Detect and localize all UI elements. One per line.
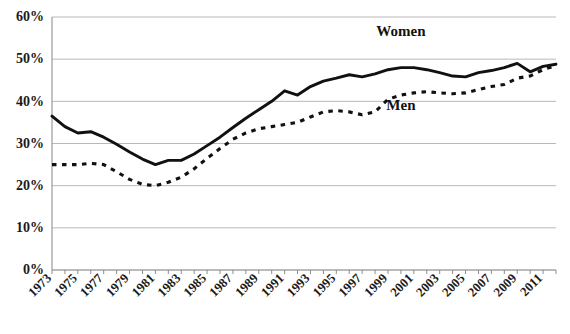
x-axis-tick-label: 1997	[335, 270, 364, 299]
x-axis-tick-label: 2011	[517, 271, 545, 299]
x-axis-tick-label: 2009	[490, 270, 519, 299]
line-chart: 0%10%20%30%40%50%60% 1973197519771979198…	[0, 0, 570, 334]
x-axis-tick-labels: 1973197519771979198119831985198719891991…	[25, 270, 545, 299]
series-line-women	[52, 63, 556, 164]
x-axis-tick-label: 1977	[77, 270, 106, 299]
x-axis-tick-label: 2001	[387, 271, 416, 300]
x-axis-tick-label: 1999	[361, 270, 390, 299]
x-axis-tick-label: 1993	[284, 270, 313, 299]
data-series	[52, 63, 556, 185]
series-line-men	[52, 65, 556, 185]
x-axis-tick-label: 1985	[180, 270, 209, 299]
x-axis-tick-label: 1991	[258, 271, 287, 300]
x-axis-tick-label: 1987	[206, 270, 235, 299]
x-axis-tick-label: 1979	[103, 270, 132, 299]
series-annotation-women: Women	[376, 23, 426, 39]
y-axis-tick-labels: 0%10%20%30%40%50%60%	[16, 9, 44, 277]
y-axis-tick-label: 20%	[16, 178, 44, 193]
series-annotation-men: Men	[386, 97, 416, 113]
y-axis-tick-label: 50%	[16, 51, 44, 66]
x-axis-tick-label: 1983	[154, 270, 183, 299]
y-axis-tick-label: 30%	[16, 136, 44, 151]
x-axis-tick-label: 1989	[232, 270, 261, 299]
y-axis-tick-label: 60%	[16, 9, 44, 24]
chart-canvas: 0%10%20%30%40%50%60% 1973197519771979198…	[0, 0, 570, 334]
x-axis-tick-label: 2003	[413, 270, 442, 299]
x-axis-tick-label: 2005	[439, 270, 468, 299]
y-axis-tick-label: 10%	[16, 220, 44, 235]
y-axis-tick-label: 40%	[16, 94, 44, 109]
x-axis-tick-label: 1995	[309, 270, 338, 299]
x-axis-tick-label: 2007	[465, 270, 494, 299]
x-axis-tick-label: 1975	[51, 270, 80, 299]
x-axis-tick-label: 1981	[129, 271, 158, 300]
gridlines	[52, 17, 556, 270]
